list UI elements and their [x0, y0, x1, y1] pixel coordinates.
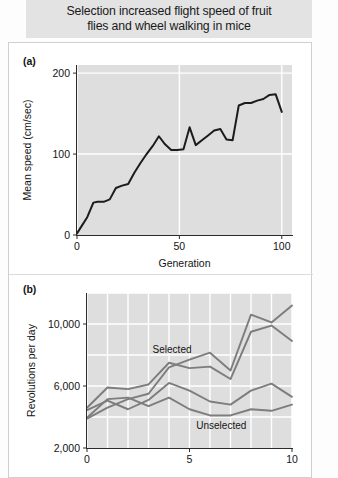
series-annotation: Unselected	[196, 420, 246, 431]
y-tick-label: 100	[52, 148, 70, 160]
figure-title-line-1: Selection increased flight speed of frui…	[66, 4, 271, 18]
figure-title-line-2: flies and wheel walking in mice	[87, 19, 251, 33]
y-axis-title: Revolutions per day	[25, 323, 37, 417]
x-tick-label: 0	[74, 240, 80, 252]
x-tick-label: 5	[187, 453, 193, 465]
y-tick-label: 10,000	[48, 318, 80, 330]
x-tick-label: 10	[286, 453, 298, 465]
y-tick-label: 200	[52, 67, 70, 79]
y-tick-label: 0	[64, 229, 70, 241]
series-annotation: Selected	[153, 344, 192, 355]
figure-title-banner: Selection increased flight speed of frui…	[26, 0, 312, 38]
plot-background	[77, 65, 292, 235]
figure-root: Selection increased flight speed of frui…	[0, 0, 338, 478]
x-axis-title: Generation	[159, 257, 211, 269]
figure-title: Selection increased flight speed of frui…	[62, 4, 275, 35]
panels-card: (a) 0501000100200GenerationMean speed (c…	[8, 42, 312, 478]
panel-a-chart: 0501000100200GenerationMean speed (cm/se…	[9, 43, 313, 275]
panel-a: (a) 0501000100200GenerationMean speed (c…	[9, 43, 313, 275]
y-tick-label: 2,000	[54, 442, 80, 454]
x-tick-label: 50	[174, 240, 186, 252]
x-tick-label: 0	[84, 453, 90, 465]
panel-b-chart: SelectedUnselected05102,0006,00010,000Re…	[9, 275, 313, 478]
x-tick-label: 100	[273, 240, 291, 252]
panel-b: (b) SelectedUnselected05102,0006,00010,0…	[9, 275, 313, 478]
y-tick-label: 6,000	[54, 380, 80, 392]
y-axis-title: Mean speed (cm/sec)	[21, 100, 33, 201]
